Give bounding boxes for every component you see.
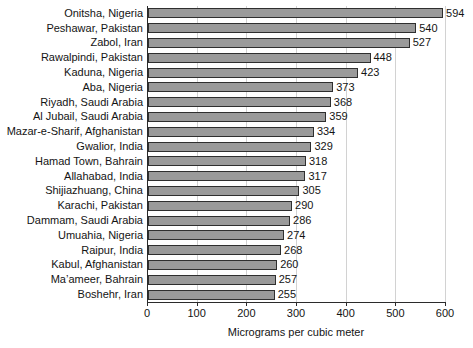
tick-mark <box>147 302 148 306</box>
category-label: Peshawar, Pakistan <box>0 22 143 35</box>
tick-mark <box>296 302 297 306</box>
bar-value-label: 255 <box>278 288 296 301</box>
category-label: Ma’ameer, Bahrain <box>0 273 143 286</box>
bar-value-label: 527 <box>413 36 431 49</box>
bar[interactable] <box>148 23 416 33</box>
bar-row: Umuahia, Nigeria274 <box>0 228 473 242</box>
bar-row: Zabol, Iran527 <box>0 36 473 50</box>
category-label: Boshehr, Iran <box>0 288 143 301</box>
x-tick-label: 400 <box>326 307 366 320</box>
category-label: Dammam, Saudi Arabia <box>0 214 143 227</box>
x-tick-label: 300 <box>276 307 316 320</box>
bar-row: Onitsha, Nigeria594 <box>0 6 473 20</box>
tick-mark <box>246 302 247 306</box>
bar[interactable] <box>148 68 358 78</box>
chart-title <box>147 0 445 4</box>
bar-row: Raipur, India268 <box>0 243 473 257</box>
tick-mark <box>395 302 396 306</box>
bar-value-label: 318 <box>309 155 327 168</box>
bar-row: Hamad Town, Bahrain318 <box>0 154 473 168</box>
bar-row: Al Jubail, Saudi Arabia359 <box>0 110 473 124</box>
bar-row: Shijiazhuang, China305 <box>0 184 473 198</box>
bar[interactable] <box>148 156 306 166</box>
category-label: Hamad Town, Bahrain <box>0 155 143 168</box>
category-label: Mazar-e-Sharif, Afghanistan <box>0 125 143 138</box>
bar-row: Riyadh, Saudi Arabia368 <box>0 95 473 109</box>
bar[interactable] <box>148 97 331 107</box>
bar-value-label: 540 <box>419 22 437 35</box>
x-tick-label: 0 <box>127 307 167 320</box>
bar-value-label: 305 <box>302 184 320 197</box>
bar-row: Kabul, Afghanistan260 <box>0 258 473 272</box>
category-label: Gwalior, India <box>0 140 143 153</box>
bar-value-label: 373 <box>336 81 354 94</box>
bar-row: Ma’ameer, Bahrain257 <box>0 272 473 286</box>
bar[interactable] <box>148 216 290 226</box>
bar-value-label: 257 <box>279 273 297 286</box>
bar[interactable] <box>148 112 326 122</box>
category-label: Rawalpindi, Pakistan <box>0 51 143 64</box>
tick-mark <box>445 302 446 306</box>
bar[interactable] <box>148 186 299 196</box>
category-label: Kabul, Afghanistan <box>0 258 143 271</box>
category-label: Zabol, Iran <box>0 36 143 49</box>
bar-value-label: 594 <box>446 7 464 20</box>
bar[interactable] <box>148 275 276 285</box>
bar-value-label: 268 <box>284 244 302 257</box>
bar[interactable] <box>148 38 410 48</box>
category-label: Onitsha, Nigeria <box>0 7 143 20</box>
category-label: Umuahia, Nigeria <box>0 229 143 242</box>
bar-value-label: 260 <box>280 258 298 271</box>
bar[interactable] <box>148 142 311 152</box>
bar[interactable] <box>148 8 443 18</box>
bar-value-label: 423 <box>361 66 379 79</box>
x-tick-label: 600 <box>425 307 465 320</box>
x-axis-title: Micrograms per cubic meter <box>147 325 445 339</box>
bar[interactable] <box>148 260 277 270</box>
bar-value-label: 448 <box>374 51 392 64</box>
bar-chart: 0100200300400500600 Onitsha, Nigeria594P… <box>0 0 473 348</box>
bar-row: Mazar-e-Sharif, Afghanistan334 <box>0 124 473 138</box>
bar-row: Allahabad, India317 <box>0 169 473 183</box>
x-tick-label: 100 <box>177 307 217 320</box>
category-label: Raipur, India <box>0 244 143 257</box>
bar[interactable] <box>148 127 314 137</box>
category-label: Karachi, Pakistan <box>0 199 143 212</box>
category-label: Riyadh, Saudi Arabia <box>0 96 143 109</box>
bar-value-label: 317 <box>308 170 326 183</box>
bar-value-label: 368 <box>334 96 352 109</box>
bar-value-label: 274 <box>287 229 305 242</box>
bar[interactable] <box>148 290 275 300</box>
x-tick-label: 500 <box>375 307 415 320</box>
tick-mark <box>197 302 198 306</box>
bar-row: Peshawar, Pakistan540 <box>0 21 473 35</box>
category-label: Kaduna, Nigeria <box>0 66 143 79</box>
bar[interactable] <box>148 201 292 211</box>
bar-row: Dammam, Saudi Arabia286 <box>0 213 473 227</box>
bar-value-label: 290 <box>295 199 313 212</box>
x-tick-label: 200 <box>226 307 266 320</box>
bar[interactable] <box>148 53 371 63</box>
bar-row: Boshehr, Iran255 <box>0 287 473 301</box>
bar[interactable] <box>148 230 284 240</box>
bar-row: Rawalpindi, Pakistan448 <box>0 50 473 64</box>
bar-row: Aba, Nigeria373 <box>0 80 473 94</box>
category-label: Shijiazhuang, China <box>0 184 143 197</box>
category-label: Allahabad, India <box>0 170 143 183</box>
bar-row: Kaduna, Nigeria423 <box>0 65 473 79</box>
bar-row: Karachi, Pakistan290 <box>0 198 473 212</box>
bar-value-label: 334 <box>317 125 335 138</box>
tick-mark <box>346 302 347 306</box>
bar-value-label: 329 <box>314 140 332 153</box>
category-label: Aba, Nigeria <box>0 81 143 94</box>
category-label: Al Jubail, Saudi Arabia <box>0 110 143 123</box>
bar[interactable] <box>148 82 333 92</box>
bar[interactable] <box>148 171 305 181</box>
bar-row: Gwalior, India329 <box>0 139 473 153</box>
bar[interactable] <box>148 245 281 255</box>
bar-value-label: 359 <box>329 110 347 123</box>
bar-value-label: 286 <box>293 214 311 227</box>
